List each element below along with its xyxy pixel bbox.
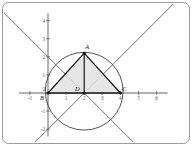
y-tick-label--1: -1 bbox=[41, 108, 46, 114]
point-d[interactable] bbox=[83, 92, 86, 95]
x-tick-label-1: 1 bbox=[65, 95, 68, 101]
x-tick-label-6: 6 bbox=[155, 95, 158, 101]
point-label-d: D bbox=[74, 85, 80, 92]
x-tick-label--1: -1 bbox=[28, 95, 33, 101]
point-label-a: A bbox=[84, 43, 89, 50]
point-label-b: B bbox=[40, 94, 44, 101]
x-tick-label-2: 2 bbox=[83, 95, 86, 101]
x-tick-label-3: 3 bbox=[101, 95, 104, 101]
point-b[interactable] bbox=[47, 92, 50, 95]
figure-frame: -1123456-2-112340ABCD bbox=[0, 0, 192, 146]
point-label-c: C bbox=[122, 85, 127, 92]
point-a[interactable] bbox=[83, 52, 86, 55]
y-tick-label-4: 4 bbox=[43, 18, 46, 24]
y-tick-label-2: 2 bbox=[43, 54, 46, 60]
y-tick-label-3: 3 bbox=[43, 36, 46, 42]
geometry-plot: -1123456-2-112340ABCD bbox=[0, 0, 192, 146]
y-tick-label--2: -2 bbox=[41, 126, 46, 132]
y-tick-label-1: 1 bbox=[43, 72, 46, 78]
x-tick-label-5: 5 bbox=[137, 95, 140, 101]
